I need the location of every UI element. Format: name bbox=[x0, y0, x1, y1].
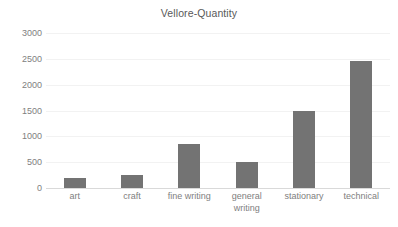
y-axis-tick-label: 0 bbox=[2, 183, 42, 193]
x-axis-category-label-line: writing bbox=[218, 203, 275, 215]
y-axis-tick-label: 2500 bbox=[2, 54, 42, 64]
x-axis-category-label-line: fine writing bbox=[161, 191, 218, 203]
x-axis-category-label-line: art bbox=[46, 191, 103, 203]
bar bbox=[350, 61, 372, 188]
x-axis-category-label: stationary bbox=[275, 191, 332, 203]
y-axis-tick-label: 3000 bbox=[2, 28, 42, 38]
x-axis-category-label: craft bbox=[103, 191, 160, 203]
bar bbox=[293, 111, 315, 189]
bar bbox=[64, 178, 86, 188]
y-axis-tick-label: 1500 bbox=[2, 106, 42, 116]
gridline bbox=[46, 33, 390, 34]
x-axis-category-label-line: general bbox=[218, 191, 275, 203]
bar bbox=[121, 175, 143, 188]
x-axis-category-label: art bbox=[46, 191, 103, 203]
bar bbox=[178, 144, 200, 188]
x-axis-category-label: fine writing bbox=[161, 191, 218, 203]
chart-container: Vellore-Quantity 05001000150020002500300… bbox=[0, 0, 398, 227]
plot-area bbox=[46, 33, 390, 188]
x-axis-category-label: generalwriting bbox=[218, 191, 275, 214]
y-axis-tick-label: 2000 bbox=[2, 80, 42, 90]
x-axis-category-label-line: technical bbox=[333, 191, 390, 203]
y-axis-tick-label: 1000 bbox=[2, 131, 42, 141]
gridline bbox=[46, 111, 390, 112]
y-axis-tick-label: 500 bbox=[2, 157, 42, 167]
x-axis-category-label: technical bbox=[333, 191, 390, 203]
gridline bbox=[46, 136, 390, 137]
gridline bbox=[46, 162, 390, 163]
gridline bbox=[46, 85, 390, 86]
x-axis-category-labels: artcraftfine writinggeneralwritingstatio… bbox=[46, 191, 390, 227]
gridline bbox=[46, 59, 390, 60]
x-axis-category-label-line: craft bbox=[103, 191, 160, 203]
y-axis-tick-labels: 050010001500200025003000 bbox=[0, 0, 42, 227]
chart-title: Vellore-Quantity bbox=[0, 7, 398, 19]
x-axis-category-label-line: stationary bbox=[275, 191, 332, 203]
x-axis-line bbox=[46, 188, 390, 189]
bar bbox=[236, 162, 258, 188]
